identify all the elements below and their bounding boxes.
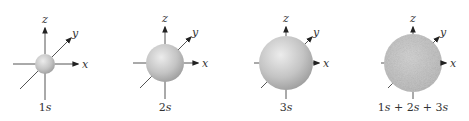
orbital-caption: 2s [159, 101, 172, 114]
x-axis-label: x [82, 58, 89, 71]
orbital-caption: 3s [280, 101, 293, 114]
y-axis-label: y [439, 26, 447, 39]
z-axis-label: z [41, 13, 48, 26]
y-axis-arrow [305, 37, 312, 44]
y-axis-negative [140, 76, 152, 88]
y-axis-arrow [52, 38, 71, 57]
orbital-caption: 1s + 2s + 3s [378, 101, 449, 114]
y-axis-negative [388, 84, 392, 88]
panel-2s: zyx2s [133, 12, 209, 114]
z-axis-label: z [282, 12, 289, 25]
z-axis-label: z [161, 12, 168, 25]
x-axis-label: x [450, 57, 457, 70]
y-axis-label: y [191, 26, 199, 39]
orbital-figure-svg: zyx1szyx2szyx3szyx1s + 2s + 3s [0, 0, 469, 121]
orbital-diagram: zyx1szyx2szyx3szyx1s + 2s + 3s [0, 0, 469, 121]
x-axis-label: x [202, 57, 209, 70]
y-axis-arrow [178, 37, 191, 50]
panel-3s: zyx3s [254, 12, 330, 114]
orbital-sphere-2s [146, 44, 184, 82]
orbital-caption: 1s [39, 101, 52, 114]
y-axis-arrow [434, 37, 439, 42]
x-axis-label: x [323, 57, 330, 70]
panel-1s: zyx1s [13, 13, 89, 114]
y-axis-label: y [312, 26, 320, 39]
orbital-sphere-3s [259, 36, 313, 90]
orbital-sphere-sum [384, 34, 442, 92]
y-axis-label: y [71, 27, 79, 40]
z-axis-label: z [409, 12, 416, 25]
panel-sum: zyx1s + 2s + 3s [378, 12, 457, 114]
y-axis-negative [20, 71, 38, 89]
y-axis-negative [261, 82, 267, 88]
orbital-sphere-1s [35, 54, 55, 74]
